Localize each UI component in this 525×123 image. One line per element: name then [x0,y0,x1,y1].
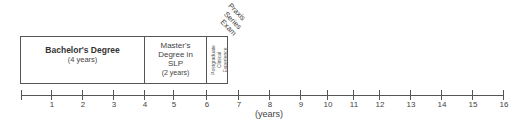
axis-tick [238,90,239,100]
axis-tick-label: 9 [291,100,311,109]
axis-tick [51,90,52,100]
axis-tick-label: 7 [229,100,249,109]
axis-tick-label: 4 [135,100,155,109]
axis-tick [206,90,207,100]
axis-tick [327,90,328,100]
axis-tick-label: 12 [370,100,390,109]
axis-tick-label: 15 [463,100,483,109]
axis-tick-label: 6 [197,100,217,109]
masters-degree-duration: (2 years) [144,69,207,77]
axis-tick [300,90,301,100]
masters-degree-line-3: SLP [144,59,207,68]
bachelors-degree-duration: (4 years) [20,56,145,65]
axis-tick [441,90,442,100]
axis-tick-label: 2 [73,100,93,109]
postgraduate-experience-label: Postgraduate Clinical Experience [210,36,224,84]
postgraduate-line-3: Experience [222,36,228,84]
axis-tick [503,90,504,100]
axis-tick-label: 3 [104,100,124,109]
axis-tick [21,90,22,100]
axis-tick [410,90,411,100]
axis-tick [82,90,83,100]
axis-tick-label: 8 [260,100,280,109]
axis-tick-label: 14 [432,100,452,109]
axis-tick-label: 5 [164,100,184,109]
masters-degree-line-1: Master's [144,41,207,50]
masters-degree-label: Master's Degree in SLP (2 years) [144,41,207,77]
bachelors-degree-label: Bachelor's Degree (4 years) [20,46,145,64]
axis-tick-label: 16 [494,100,514,109]
axis-tick-label: 11 [344,100,364,109]
masters-degree-line-2: Degree in [144,50,207,59]
axis-tick [173,90,174,100]
axis-title: (years) [255,109,283,119]
axis-tick-label: 1 [42,100,62,109]
axis-tick [379,90,380,100]
axis-tick-label: 13 [401,100,421,109]
timeline-axis [21,95,504,96]
axis-tick [353,90,354,100]
axis-tick-label: 10 [318,100,338,109]
axis-tick [472,90,473,100]
axis-tick [144,90,145,100]
axis-tick [269,90,270,100]
axis-tick [113,90,114,100]
praxis-exam-milestone: Praxis Series Exam [214,2,250,38]
